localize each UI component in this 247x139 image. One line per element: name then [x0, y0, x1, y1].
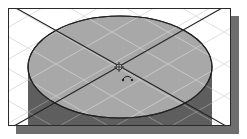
cad-viewport[interactable] [0, 0, 247, 139]
